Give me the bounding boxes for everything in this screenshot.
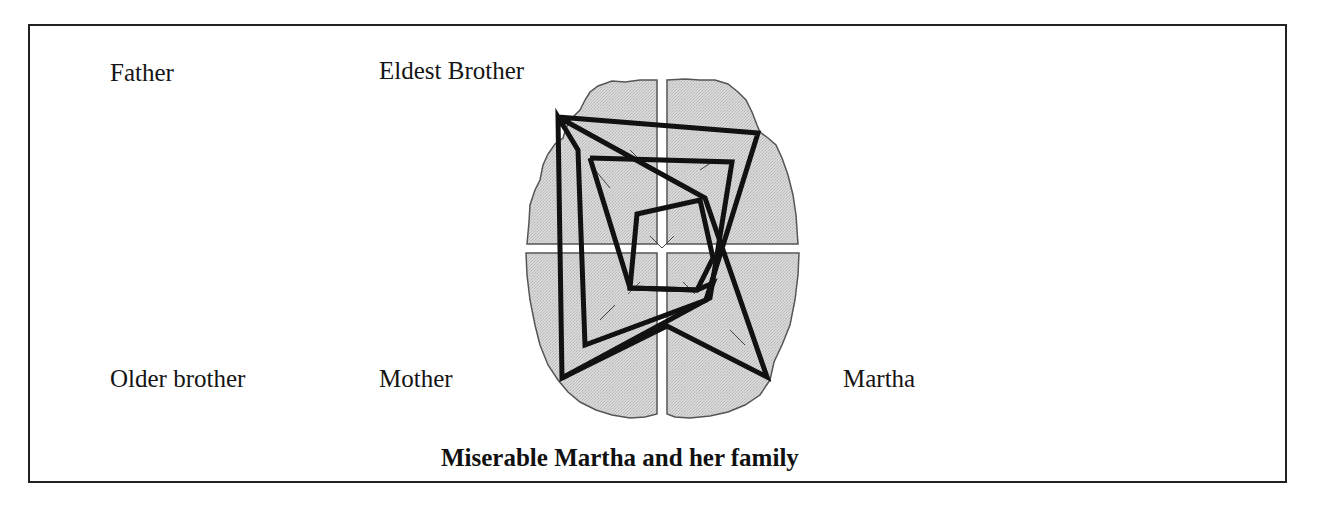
figure-caption: Miserable Martha and her family: [441, 445, 799, 470]
brain-left-hemisphere: [526, 80, 657, 418]
brain-radar-diagram: [0, 0, 1317, 517]
